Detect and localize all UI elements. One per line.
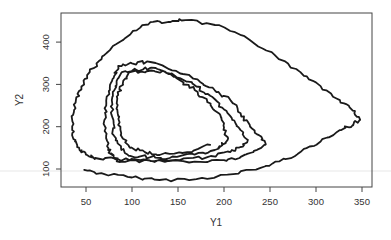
x-tick-label: 50 bbox=[81, 196, 92, 207]
x-tick-label: 350 bbox=[354, 196, 370, 207]
x-tick-label: 150 bbox=[170, 196, 186, 207]
x-tick-label: 200 bbox=[216, 196, 232, 207]
y-axis: 100200300400 bbox=[40, 34, 61, 177]
x-tick-label: 100 bbox=[124, 196, 140, 207]
y-axis-title: Y2 bbox=[14, 93, 25, 106]
y-tick-label: 400 bbox=[40, 34, 51, 50]
phase-plot: 50100150200250300350 100200300400 Y1 Y2 bbox=[0, 0, 391, 240]
y-tick-label: 200 bbox=[40, 119, 51, 135]
x-axis-title: Y1 bbox=[210, 217, 223, 228]
y-tick-label: 100 bbox=[40, 161, 51, 177]
x-tick-label: 300 bbox=[308, 196, 324, 207]
x-axis: 50100150200250300350 bbox=[81, 187, 370, 207]
trajectory-line bbox=[72, 19, 361, 181]
y-tick-label: 300 bbox=[40, 76, 51, 92]
x-tick-label: 250 bbox=[262, 196, 278, 207]
